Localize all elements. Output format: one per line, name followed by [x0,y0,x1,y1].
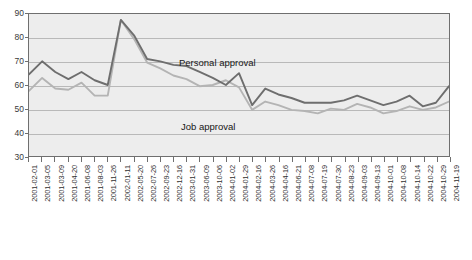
x-tick-mark [160,157,161,162]
series-layer [29,14,449,156]
series-annotation-personal-approval: Personal approval [179,58,256,68]
x-tick-mark [107,157,108,162]
x-tick-mark [173,157,174,162]
x-tick-mark [371,157,372,162]
x-tick-mark [120,157,121,162]
x-tick-mark [265,157,266,162]
x-tick-label: 2004-11-19 [453,165,460,201]
x-tick-label: 2001-03-09 [58,165,65,202]
x-tick-mark [239,157,240,162]
x-tick-label: 2002-01-11 [124,165,131,201]
series-annotation-job-approval: Job approval [181,122,235,132]
x-tick-label: 2001-02-01 [31,165,38,202]
x-tick-label: 2003-01-31 [189,165,196,202]
x-tick-label: 2004-03-26 [269,165,276,202]
y-tick-label-60: 60 [15,81,24,89]
x-tick-label: 2004-10-01 [387,165,394,202]
y-tick-label-70: 70 [15,57,24,65]
x-tick-label: 2004-09-03 [361,165,368,202]
x-tick-label: 2004-07-19 [321,165,328,202]
x-tick-label: 2004-07-08 [308,165,315,202]
x-tick-mark [424,157,425,162]
x-tick-label: 2004-07-30 [335,165,342,202]
y-tick-label-40: 40 [15,129,24,137]
x-tick-label: 2003-06-09 [203,165,210,202]
x-tick-mark [450,157,451,162]
x-tick-label: 2003-10-06 [216,165,223,202]
x-tick-mark [41,157,42,162]
series-svg [29,14,449,156]
x-tick-label: 2004-04-16 [282,165,289,202]
x-axis: 2001-02-012001-03-052001-03-092001-04-20… [28,157,450,260]
x-tick-mark [134,157,135,162]
x-tick-mark [318,157,319,162]
x-tick-mark [147,157,148,162]
x-tick-mark [226,157,227,162]
x-tick-mark [94,157,95,162]
x-tick-label: 2001-03-05 [44,165,51,202]
x-tick-mark [213,157,214,162]
x-tick-label: 2004-01-02 [229,165,236,202]
x-tick-mark [279,157,280,162]
x-tick-label: 2004-06-21 [295,165,302,202]
x-tick-label: 2002-07-26 [150,165,157,202]
y-tick-label-50: 50 [15,105,24,113]
x-tick-mark [292,157,293,162]
x-tick-label: 2002-12-16 [176,165,183,202]
x-tick-mark [28,157,29,162]
x-tick-mark [199,157,200,162]
x-tick-mark [437,157,438,162]
x-tick-label: 2004-08-23 [348,165,355,202]
x-tick-label: 2004-09-13 [374,165,381,202]
x-tick-label: 2004-02-16 [255,165,262,202]
x-tick-mark [358,157,359,162]
x-tick-mark [331,157,332,162]
x-tick-label: 2004-10-08 [400,165,407,202]
x-tick-label: 2001-11-26 [110,165,117,201]
x-tick-mark [252,157,253,162]
x-tick-label: 2001-08-03 [97,165,104,202]
x-tick-mark [384,157,385,162]
x-tick-mark [54,157,55,162]
x-tick-label: 2004-10-29 [440,165,447,202]
x-tick-mark [410,157,411,162]
y-tick-label-80: 80 [15,33,24,41]
x-tick-label: 2004-10-22 [427,165,434,202]
y-axis: 90807060504030 [0,13,28,157]
x-tick-label: 2002-05-20 [137,165,144,202]
plot-area: Personal approval Job approval [28,13,450,157]
x-tick-mark [68,157,69,162]
x-tick-label: 2002-09-23 [163,165,170,202]
x-tick-label: 2001-06-08 [84,165,91,202]
x-tick-mark [345,157,346,162]
x-tick-mark [397,157,398,162]
x-tick-mark [81,157,82,162]
x-tick-mark [186,157,187,162]
x-tick-mark [305,157,306,162]
y-tick-label-90: 90 [15,9,24,17]
x-tick-label: 2004-01-29 [242,165,249,202]
x-tick-label: 2004-10-14 [414,165,421,202]
chart-root: 90807060504030 Personal approval Job app… [0,0,472,260]
x-tick-label: 2001-04-20 [71,165,78,202]
y-tick-label-30: 30 [15,153,24,161]
